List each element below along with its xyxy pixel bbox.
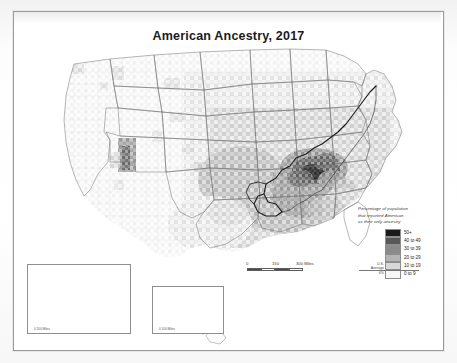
legend-title-line-3: as their only ancestry	[358, 219, 432, 226]
legend-label-0-9: 0 to 9	[404, 270, 421, 278]
legend-label-30-39: 30 to 39	[404, 245, 421, 253]
hawaii-inset-scale: 0 100 Miles	[159, 327, 175, 331]
legend-swatch-40-49	[385, 237, 401, 245]
us-average-line-3: 6%	[358, 271, 384, 275]
hawaii-inset: 0 100 Miles	[152, 286, 224, 334]
legend-title-line-1: Percentage of population	[358, 206, 432, 213]
scale-bar-graphic	[246, 268, 318, 271]
legend-label-40-49: 40 to 49	[404, 237, 421, 245]
scale-seg-1	[247, 268, 261, 271]
scale-label-0: 0	[246, 261, 248, 266]
scale-label-150: 150	[272, 261, 279, 266]
legend-label-20-29: 20 to 29	[404, 254, 421, 262]
legend-body: 50+ 40 to 49 30 to 39 20 to 29 10 to 19 …	[358, 229, 436, 283]
legend-title-line-2: that reported American	[358, 213, 432, 220]
us-average-annotation: U.S. Average 6%	[358, 262, 384, 275]
scale-seg-4	[289, 268, 303, 271]
scale-label-300: 300 Miles	[296, 261, 314, 266]
scale-bar: 0 150 300 Miles	[246, 261, 318, 271]
alaska-inset-scale: 0 200 Miles	[34, 327, 50, 331]
legend-label-50-plus: 50+	[404, 229, 421, 237]
legend-swatch-10-19	[385, 262, 401, 270]
legend-swatch-30-39	[385, 245, 401, 253]
legend-swatch-20-29	[385, 254, 401, 262]
legend-swatch-50-plus	[385, 229, 401, 237]
map-page: American Ancestry, 2017	[0, 0, 457, 363]
scale-bar-labels: 0 150 300 Miles	[246, 261, 318, 267]
alaska-inset: 0 200 Miles	[27, 264, 131, 334]
scale-seg-2	[261, 268, 275, 271]
legend-title: Percentage of population that reported A…	[358, 206, 432, 226]
map-legend: Percentage of population that reported A…	[358, 206, 436, 283]
us-average-leader-line	[359, 270, 419, 271]
legend-swatch-0-9	[385, 270, 401, 278]
legend-label-10-19: 10 to 19	[404, 262, 421, 270]
scale-seg-3	[275, 268, 289, 271]
